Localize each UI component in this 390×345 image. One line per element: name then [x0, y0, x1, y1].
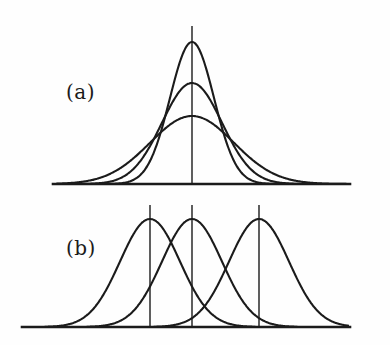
gaussian-figure-svg [0, 0, 390, 345]
panel-b-label: (b) [66, 236, 96, 260]
panel-b-plot [22, 205, 350, 327]
panel-a-plot [53, 26, 350, 184]
panel-a-curve-wide-short [57, 116, 346, 184]
panel-a-curve-medium [57, 83, 346, 184]
figure-container: (a) (b) [0, 0, 390, 345]
panel-a-curve-narrow-tall [57, 42, 346, 184]
panel-a-label: (a) [66, 80, 95, 104]
